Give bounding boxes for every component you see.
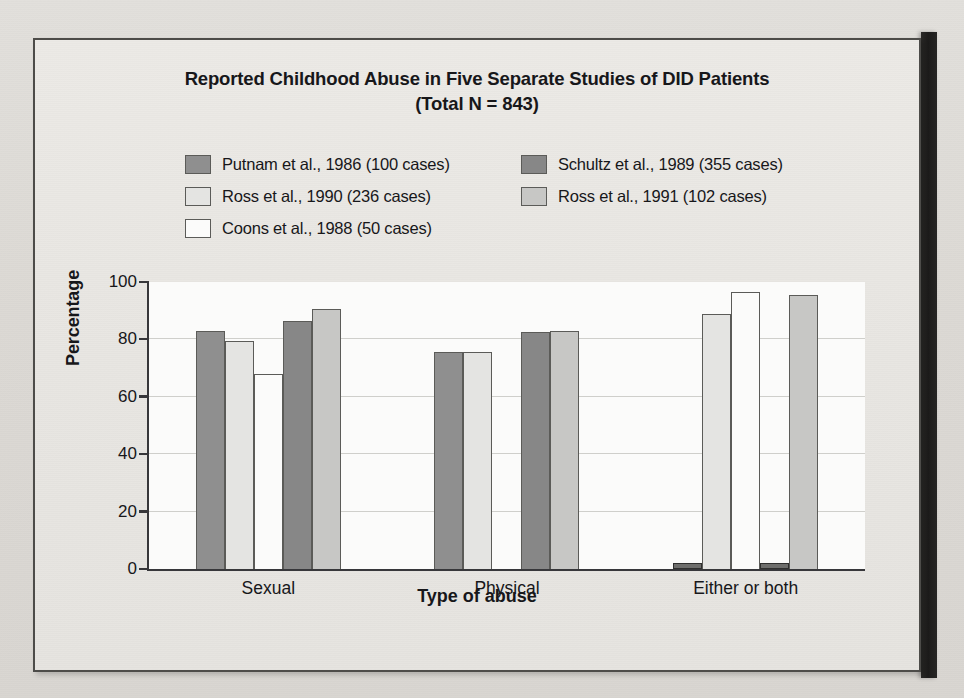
chart-title: Reported Childhood Abuse in Five Separat… [35, 66, 919, 116]
bar-physical-series-3 [521, 332, 550, 569]
legend-item-coons-1988: Coons et al., 1988 (50 cases) [185, 212, 485, 244]
legend-label-ross-1990: Ross et al., 1990 (236 cases) [222, 187, 431, 206]
plot-area: 020406080100 SexualPhysicalEither or bot… [147, 282, 865, 571]
legend-item-ross-1990: Ross et al., 1990 (236 cases) [185, 180, 485, 212]
chart-legend: Putnam et al., 1986 (100 cases) Schultz … [185, 148, 885, 244]
legend-item-schultz-1989: Schultz et al., 1989 (355 cases) [521, 148, 821, 180]
bar-either-or-both-series-2 [731, 292, 760, 569]
legend-swatch-icon-ross-1990 [185, 187, 211, 206]
legend-label-putnam-1986: Putnam et al., 1986 (100 cases) [222, 155, 450, 174]
y-tick-mark [139, 338, 149, 341]
plot-wrapper: Percentage 020406080100 SexualPhysicalEi… [35, 248, 919, 648]
bar-physical-series-4 [550, 331, 579, 569]
y-tick-label: 40 [91, 444, 137, 464]
chart-title-line-2: (Total N = 843) [35, 91, 919, 116]
y-tick-label: 100 [91, 272, 137, 292]
bar-either-or-both-series-1 [702, 314, 731, 569]
bar-either-or-both-series-0 [673, 563, 702, 569]
bar-sexual-series-2 [254, 374, 283, 569]
bar-physical-series-0 [434, 352, 463, 569]
bar-physical-series-1 [463, 352, 492, 569]
bar-sexual-series-1 [225, 341, 254, 569]
x-axis-label: Type of abuse [35, 586, 919, 607]
legend-swatch-icon-coons-1988 [185, 219, 211, 238]
chart-title-line-1: Reported Childhood Abuse in Five Separat… [35, 66, 919, 91]
legend-item-ross-1991: Ross et al., 1991 (102 cases) [521, 180, 821, 212]
scanned-page: Reported Childhood Abuse in Five Separat… [0, 0, 964, 698]
bar-sexual-series-4 [312, 309, 341, 569]
y-tick-label: 60 [91, 387, 137, 407]
y-tick-mark [139, 510, 149, 513]
legend-label-coons-1988: Coons et al., 1988 (50 cases) [222, 219, 432, 238]
y-axis-label: Percentage [63, 270, 84, 366]
figure-frame: Reported Childhood Abuse in Five Separat… [33, 38, 921, 672]
y-tick-label: 20 [91, 502, 137, 522]
y-tick-mark [139, 568, 149, 571]
book-gutter-shadow [921, 32, 937, 678]
y-tick-mark [139, 453, 149, 456]
y-tick-label: 80 [91, 329, 137, 349]
bar-group-either-or-both [626, 282, 865, 569]
bar-sexual-series-0 [196, 331, 225, 569]
y-tick-mark [139, 281, 149, 284]
legend-swatch-icon-schultz-1989 [521, 155, 547, 174]
legend-swatch-icon-ross-1991 [521, 187, 547, 206]
bar-series-container [149, 282, 865, 569]
bar-group-physical [388, 282, 627, 569]
bar-sexual-series-3 [283, 321, 312, 569]
legend-swatch-icon-putnam-1986 [185, 155, 211, 174]
y-tick-mark [139, 395, 149, 398]
legend-item-putnam-1986: Putnam et al., 1986 (100 cases) [185, 148, 485, 180]
bar-group-sexual [149, 282, 388, 569]
bar-either-or-both-series-3 [760, 563, 789, 569]
bar-either-or-both-series-4 [789, 295, 818, 569]
legend-label-ross-1991: Ross et al., 1991 (102 cases) [558, 187, 767, 206]
y-tick-label: 0 [91, 559, 137, 579]
legend-label-schultz-1989: Schultz et al., 1989 (355 cases) [558, 155, 783, 174]
